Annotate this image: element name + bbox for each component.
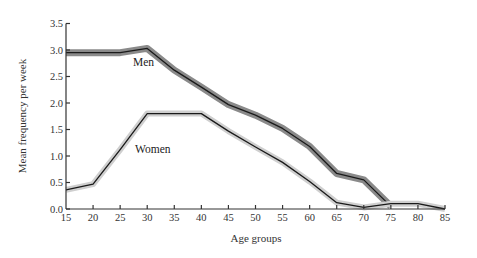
ticks: 0.00.51.01.52.02.53.03.51520253035404550…: [50, 18, 450, 223]
series-halo-women: [66, 114, 445, 209]
x-tick-label: 75: [386, 212, 397, 223]
y-axis-title: Mean frequency per week: [16, 58, 28, 173]
y-tick-label: 2.0: [50, 98, 63, 109]
x-tick-label: 25: [115, 212, 126, 223]
x-axis-title: Age groups: [230, 232, 281, 244]
x-tick-label: 15: [61, 212, 72, 223]
x-tick-label: 65: [331, 212, 342, 223]
x-tick-label: 40: [196, 212, 207, 223]
y-tick-label: 1.5: [50, 124, 63, 135]
x-tick-label: 85: [440, 212, 451, 223]
x-tick-label: 45: [223, 212, 234, 223]
series-line-women: [66, 114, 445, 209]
series-label-men: Men: [133, 56, 154, 68]
x-tick-label: 60: [304, 212, 315, 223]
line-chart: 0.00.51.01.52.02.53.03.51520253035404550…: [0, 0, 477, 258]
y-tick-label: 3.0: [50, 45, 63, 56]
x-tick-label: 35: [169, 212, 180, 223]
series-layer: [66, 48, 445, 209]
x-tick-label: 55: [277, 212, 288, 223]
x-tick-label: 50: [250, 212, 261, 223]
y-tick-label: 3.5: [50, 18, 63, 29]
series-halo-men: [66, 48, 391, 206]
x-tick-label: 70: [359, 212, 370, 223]
y-tick-label: 2.5: [50, 71, 63, 82]
x-tick-label: 20: [88, 212, 99, 223]
y-tick-label: 1.0: [50, 151, 63, 162]
series-line-men: [66, 48, 391, 206]
y-tick-label: 0.5: [50, 177, 63, 188]
series-label-women: Women: [135, 143, 171, 155]
x-tick-label: 80: [413, 212, 424, 223]
x-tick-label: 30: [142, 212, 153, 223]
